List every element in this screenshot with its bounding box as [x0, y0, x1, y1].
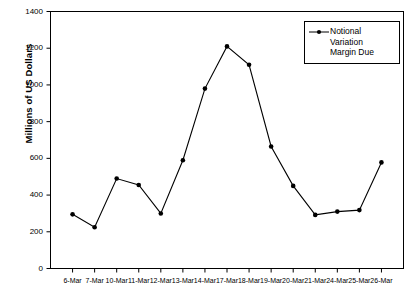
y-tick-label: 200: [9, 228, 43, 236]
y-tick-label: 1200: [9, 44, 43, 52]
x-tick-label: 26-Mar: [361, 277, 401, 284]
data-point: [225, 44, 230, 49]
x-tick-marks: [73, 269, 382, 273]
data-point: [313, 213, 318, 218]
legend-label: Notional Variation Margin Due: [330, 26, 374, 58]
y-tick-label: 1000: [9, 81, 43, 89]
data-point: [357, 208, 362, 213]
y-tick-label: 600: [9, 154, 43, 162]
data-point: [70, 212, 75, 217]
legend-line-marker-icon: [308, 27, 330, 37]
data-point: [379, 160, 384, 165]
data-point: [136, 183, 141, 188]
data-point: [247, 62, 252, 67]
data-point: [335, 209, 340, 214]
data-point: [203, 86, 208, 91]
data-point: [159, 211, 164, 216]
data-series-line: [73, 46, 382, 227]
y-tick-label: 0: [9, 265, 43, 273]
y-tick-label: 400: [9, 191, 43, 199]
line-chart: Millions of US Dollars 02004006008001000…: [0, 0, 415, 295]
y-tick-label: 800: [9, 118, 43, 126]
data-point: [291, 184, 296, 189]
y-tick-marks: [47, 12, 51, 269]
y-tick-label: 1400: [9, 8, 43, 16]
data-point: [114, 176, 119, 181]
data-point: [92, 225, 97, 230]
legend-entry: Notional Variation Margin Due: [308, 26, 396, 58]
legend: Notional Variation Margin Due: [304, 21, 400, 64]
y-axis-title: Millions of US Dollars: [23, 14, 34, 174]
data-point: [269, 144, 274, 149]
data-point: [181, 158, 186, 163]
data-point-markers: [70, 44, 383, 229]
